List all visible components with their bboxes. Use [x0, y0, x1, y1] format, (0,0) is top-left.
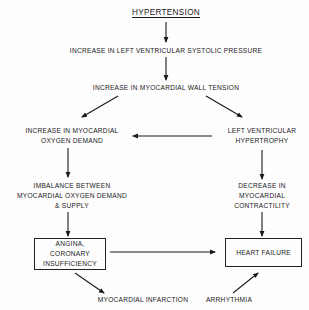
node-oxygen-demand: INCREASE IN MYOCARDIAL OXYGEN DEMAND — [25, 126, 118, 146]
arrow-wall-tension-to-oxygen-demand — [82, 96, 118, 117]
node-imbalance: IMBALANCE BETWEEN MYOCARDIAL OXYGEN DEMA… — [17, 181, 127, 211]
node-arrhythmia: ARRHYTHMIA — [206, 295, 252, 305]
title-hypertension: HYPERTENSION — [132, 8, 200, 18]
box-angina-line-1: ANGINA, — [43, 239, 97, 249]
node-lv-hypertrophy: LEFT VENTRICULAR HYPERTROPHY — [228, 126, 296, 146]
box-angina-line-3: INSUFFICIENCY — [43, 259, 97, 269]
box-heart-failure: HEART FAILURE — [225, 238, 302, 267]
arrow-arrhythmia-to-heart-failure — [233, 273, 258, 293]
arrow-wall-tension-to-hypertrophy — [206, 96, 242, 117]
node-lv-hypertrophy-line-2: HYPERTROPHY — [228, 136, 296, 146]
node-wall-tension: INCREASE IN MYOCARDIAL WALL TENSION — [93, 83, 239, 93]
node-myocardial-infarction: MYOCARDIAL INFARCTION — [98, 295, 188, 305]
node-imbalance-line-3: & SUPPLY — [17, 201, 127, 211]
node-imbalance-line-1: IMBALANCE BETWEEN — [17, 181, 127, 191]
node-lv-hypertrophy-line-1: LEFT VENTRICULAR — [228, 126, 296, 136]
node-oxygen-demand-line-1: INCREASE IN MYOCARDIAL — [25, 126, 118, 136]
box-heart-failure-label: HEART FAILURE — [236, 248, 291, 258]
hypertension-flow-diagram: HYPERTENSION INCREASE IN LEFT VENTRICULA… — [0, 0, 309, 310]
node-contractility-line-1: DECREASE IN — [234, 181, 290, 191]
node-contractility-line-3: CONTRACTILITY — [234, 201, 290, 211]
node-imbalance-line-2: MYOCARDIAL OXYGEN DEMAND — [17, 191, 127, 201]
node-decrease-contractility: DECREASE IN MYOCARDIAL CONTRACTILITY — [234, 181, 290, 211]
box-angina-coronary-insufficiency: ANGINA, CORONARY INSUFFICIENCY — [34, 238, 106, 270]
arrow-angina-to-infarction — [75, 273, 104, 293]
node-contractility-line-2: MYOCARDIAL — [234, 191, 290, 201]
node-oxygen-demand-line-2: OXYGEN DEMAND — [25, 136, 118, 146]
box-angina-line-2: CORONARY — [43, 249, 97, 259]
node-systolic-pressure: INCREASE IN LEFT VENTRICULAR SYSTOLIC PR… — [70, 46, 262, 56]
